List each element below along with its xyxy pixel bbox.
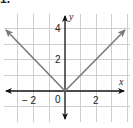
curve-right-branch (65, 30, 125, 91)
tick-label-x-0: 0 (55, 94, 61, 105)
tick-label-x-neg2: − 2 (22, 95, 37, 106)
tick-label-x-2: 2 (93, 95, 99, 106)
x-axis-label: x (118, 76, 124, 87)
tick-label-y-4: 4 (55, 23, 61, 34)
y-axis-label: y (68, 11, 74, 22)
tick-label-y-2: 2 (55, 54, 61, 65)
graph: x y 4 2 0 − 2 2 (0, 0, 133, 128)
